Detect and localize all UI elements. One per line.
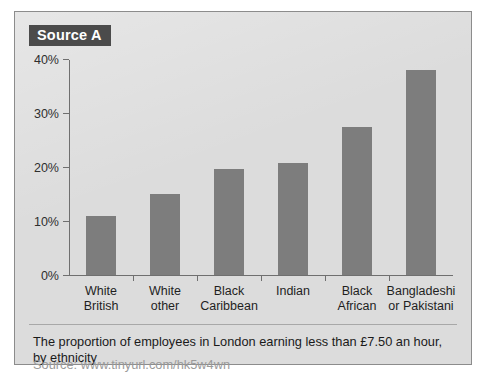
x-axis-tick — [133, 276, 134, 281]
source-panel: Source A 0%10%20%30%40%WhiteBritishWhite… — [14, 11, 472, 365]
x-axis-tick — [325, 276, 326, 281]
x-axis-tick — [261, 276, 262, 281]
bar — [406, 70, 436, 275]
x-axis-category-label: WhiteBritish — [84, 284, 119, 313]
bar — [278, 163, 308, 275]
plot-area: 0%10%20%30%40%WhiteBritishWhiteotherBlac… — [69, 60, 453, 276]
bar-chart: 0%10%20%30%40%WhiteBritishWhiteotherBlac… — [15, 48, 471, 300]
x-axis-category-label: Bangladeshior Pakistani — [387, 284, 456, 313]
x-axis-category-label: BlackAfrican — [338, 284, 377, 313]
bar — [86, 216, 116, 275]
y-axis-label: 0% — [41, 269, 59, 283]
y-axis-label: 40% — [34, 53, 59, 67]
bar — [342, 127, 372, 276]
x-axis-tick — [197, 276, 198, 281]
x-axis-category-label: Indian — [276, 284, 310, 299]
y-axis-label: 10% — [34, 215, 59, 229]
y-axis-tick — [63, 59, 69, 60]
x-axis-category-label: BlackCaribbean — [200, 284, 258, 313]
bar — [214, 169, 244, 275]
screenshot-root: Source A 0%10%20%30%40%WhiteBritishWhite… — [0, 0, 493, 381]
x-axis-tick — [389, 276, 390, 281]
source-badge: Source A — [29, 25, 111, 46]
bar — [150, 194, 180, 275]
source-url: Source: www.tinyurl.com/hk5w4wn — [33, 357, 230, 373]
y-axis-label: 20% — [34, 161, 59, 175]
y-axis-tick — [63, 167, 69, 168]
y-axis-label: 30% — [34, 107, 59, 121]
y-axis-tick — [63, 275, 69, 276]
caption-divider — [29, 324, 457, 325]
y-axis-tick — [63, 113, 69, 114]
x-axis-category-label: Whiteother — [149, 284, 181, 313]
y-axis-tick — [63, 221, 69, 222]
y-axis-line — [69, 60, 70, 276]
